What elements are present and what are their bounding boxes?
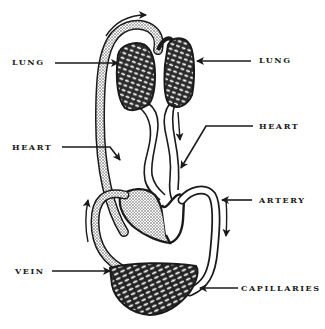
label-artery: ARTERY bbox=[259, 195, 305, 205]
pointer-heart-right bbox=[181, 126, 253, 168]
flow-arrow-vein-up-icon bbox=[86, 200, 88, 242]
label-capillaries: CAPILLARIES bbox=[241, 283, 321, 293]
label-vein: VEIN bbox=[15, 266, 45, 276]
flow-arrow-artery-down-icon bbox=[226, 200, 227, 236]
label-heart-left: HEART bbox=[12, 142, 52, 152]
left-lung bbox=[117, 43, 155, 110]
right-lung bbox=[165, 38, 195, 107]
label-lung-left: LUNG bbox=[12, 57, 45, 67]
pointer-heart-left bbox=[62, 147, 120, 160]
flow-arrow-down-to-heart-icon bbox=[178, 112, 180, 140]
label-heart-right: HEART bbox=[259, 121, 299, 131]
pulmonary-vessels bbox=[140, 103, 179, 200]
capillary-bed bbox=[110, 263, 198, 315]
diagram-artwork bbox=[0, 0, 325, 329]
circulation-diagram: LUNG LUNG HEART HEART ARTERY VEIN CAPILL… bbox=[0, 0, 325, 329]
label-lung-right: LUNG bbox=[259, 55, 292, 65]
